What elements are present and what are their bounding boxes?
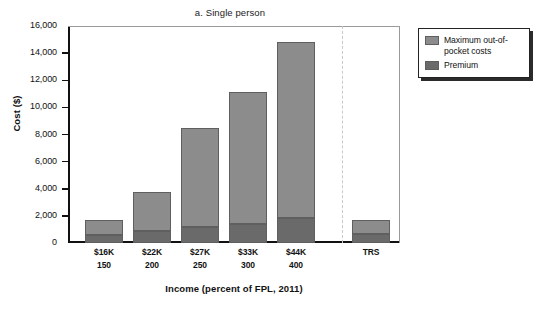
y-axis-tick xyxy=(62,107,69,109)
x-axis-income-label: TRS xyxy=(343,247,399,257)
bar-group xyxy=(181,26,219,243)
bar-segment-maximum-out-of-pocket-costs[interactable] xyxy=(229,92,267,224)
y-axis-tick-label: 16,000 xyxy=(5,20,57,30)
y-axis-tick xyxy=(62,161,69,163)
x-axis-fpl-label: 400 xyxy=(268,260,324,270)
bar-segment-premium[interactable] xyxy=(181,227,219,243)
x-axis-income-label: $44K xyxy=(268,247,324,257)
y-axis-tick xyxy=(62,52,69,54)
bar-group xyxy=(229,26,267,243)
bar-segment-maximum-out-of-pocket-costs[interactable] xyxy=(181,128,219,227)
y-axis-tick-label: 2,000 xyxy=(5,210,57,220)
y-axis-tick-label: 12,000 xyxy=(5,74,57,84)
y-axis-tick-label: 0 xyxy=(5,237,57,247)
y-axis-tick xyxy=(62,80,69,82)
y-axis-tick xyxy=(62,215,69,217)
bar-segment-maximum-out-of-pocket-costs[interactable] xyxy=(85,220,123,234)
bar-segment-premium[interactable] xyxy=(229,224,267,243)
y-axis-tick-label: 6,000 xyxy=(5,156,57,166)
legend-label-premium: Premium xyxy=(444,60,478,71)
y-axis-tick-label: 14,000 xyxy=(5,47,57,57)
y-axis-tick-label: 10,000 xyxy=(5,101,57,111)
legend-label-maximum-out-of-pocket-costs: Maximum out-of-pocket costs xyxy=(444,35,524,56)
bar-segment-premium[interactable] xyxy=(352,234,390,243)
x-axis-category-label: $44K400 xyxy=(268,247,324,270)
bar-group xyxy=(352,26,390,243)
bar-group xyxy=(85,26,123,243)
group-divider-line xyxy=(342,26,343,243)
bar-group xyxy=(133,26,171,243)
bar-segment-premium[interactable] xyxy=(277,218,315,243)
legend-item-premium[interactable]: Premium xyxy=(425,60,524,71)
y-axis-tick-label: 8,000 xyxy=(5,129,57,139)
x-axis-category-label: TRS xyxy=(343,247,399,257)
chart-page: a. Single person Cost ($) 16,00014,00012… xyxy=(0,0,537,312)
legend-swatch-premium xyxy=(425,61,439,70)
bar-segment-maximum-out-of-pocket-costs[interactable] xyxy=(352,220,390,234)
bar-segment-premium[interactable] xyxy=(85,235,123,243)
legend-item-maximum-out-of-pocket-costs[interactable]: Maximum out-of-pocket costs xyxy=(425,35,524,56)
chart-legend: Maximum out-of-pocket costs Premium xyxy=(418,28,530,78)
bar-segment-premium[interactable] xyxy=(133,231,171,243)
bar-group xyxy=(277,26,315,243)
bar-segment-maximum-out-of-pocket-costs[interactable] xyxy=(277,42,315,218)
legend-swatch-maximum-out-of-pocket-costs xyxy=(425,36,439,45)
x-axis-title: Income (percent of FPL, 2011) xyxy=(68,283,400,294)
bar-segment-maximum-out-of-pocket-costs[interactable] xyxy=(133,192,171,231)
y-axis-tick xyxy=(62,134,69,136)
y-axis-tick-label: 4,000 xyxy=(5,183,57,193)
chart-title: a. Single person xyxy=(60,7,400,18)
plot-right-border xyxy=(399,26,400,243)
y-axis-tick xyxy=(62,188,69,190)
